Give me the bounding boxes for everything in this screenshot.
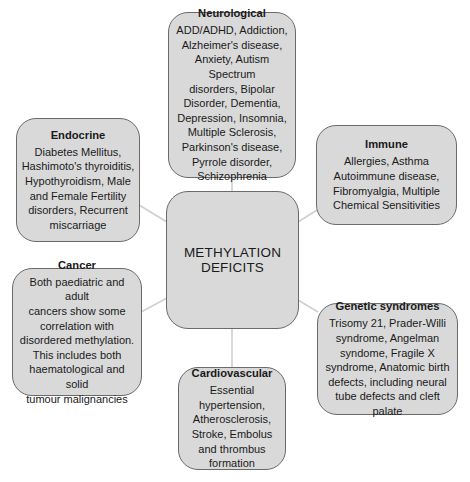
node-title: Cancer xyxy=(58,258,96,273)
node-body: Essential hypertension, Atherosclerosis,… xyxy=(192,383,273,471)
node-neurological: Neurological ADD/ADHD, Addiction, Alzhei… xyxy=(168,12,296,178)
node-title: Neurological xyxy=(198,6,266,21)
node-body: Both paediatric and adult cancers show s… xyxy=(17,275,137,406)
connector-immune xyxy=(298,210,317,222)
node-genetic-syndromes: Genetic syndromes Trisomy 21, Prader-Wil… xyxy=(317,303,458,415)
node-title: Cardiovascular xyxy=(192,366,273,381)
node-immune: Immune Allergies, Asthma Autoimmune dise… xyxy=(316,125,457,225)
node-body: ADD/ADHD, Addiction, Alzheimer's disease… xyxy=(173,23,291,184)
node-title: Immune xyxy=(365,137,408,152)
node-center-methylation-deficits: METHYLATION DEFICITS xyxy=(166,191,299,329)
node-body: Trisomy 21, Prader-Willi syndrome, Angel… xyxy=(322,316,453,418)
node-title: Genetic syndromes xyxy=(336,299,440,314)
connector-cancer xyxy=(141,298,167,312)
node-cancer: Cancer Both paediatric and adult cancers… xyxy=(12,268,142,396)
node-body: Allergies, Asthma Autoimmune disease, Fi… xyxy=(333,154,440,212)
node-endocrine: Endocrine Diabetes Mellitus, Hashimoto's… xyxy=(16,118,140,242)
connector-endocrine xyxy=(139,205,167,222)
node-cardiovascular: Cardiovascular Essential hypertension, A… xyxy=(178,367,286,470)
node-body: Diabetes Mellitus, Hashimoto's thyroidit… xyxy=(22,145,135,233)
node-title: Endocrine xyxy=(51,128,106,143)
center-label: METHYLATION DEFICITS xyxy=(184,245,281,275)
connector-genetic xyxy=(298,300,318,312)
